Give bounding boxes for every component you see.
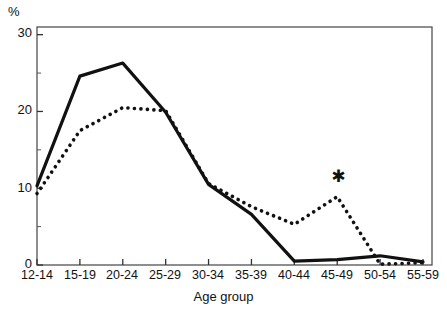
- plot-frame: [37, 27, 432, 265]
- significance-asterisk-icon: ✱: [331, 168, 345, 185]
- chart-figure: % 30 20 10 0 12-14 15-19 20-24 25-29 30-…: [0, 0, 447, 311]
- axis-ticks: [37, 35, 423, 265]
- plot-area: [0, 0, 447, 311]
- data-series: [37, 63, 423, 264]
